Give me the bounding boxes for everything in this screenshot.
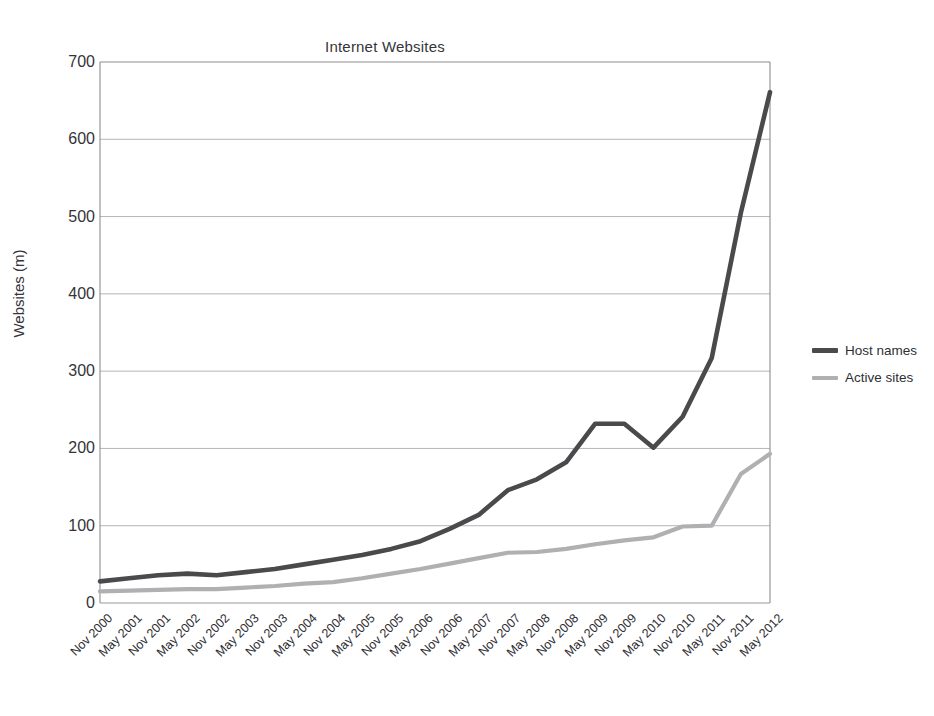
y-tick-0: 0 [49, 594, 95, 612]
legend-swatch-host-names [812, 348, 838, 353]
y-tick-300: 300 [49, 362, 95, 380]
y-axis-tick-labels: 7006005004003002001000 [40, 0, 95, 716]
series-line-active-sites [100, 454, 770, 592]
legend-swatch-active-sites [812, 376, 838, 380]
y-tick-100: 100 [49, 517, 95, 535]
y-tick-200: 200 [49, 439, 95, 457]
axis-frame [100, 62, 770, 603]
y-axis-title: Websites (m) [10, 214, 27, 374]
legend-item-active-sites: Active sites [812, 364, 917, 391]
y-tick-400: 400 [49, 285, 95, 303]
chart-legend: Host names Active sites [812, 337, 917, 391]
series-line-host-names [100, 92, 770, 581]
gridlines [100, 62, 770, 526]
legend-label-host-names: Host names [845, 344, 917, 358]
legend-item-host-names: Host names [812, 337, 917, 364]
series-lines [100, 92, 770, 591]
plot-area [0, 0, 934, 716]
chart-title: Internet Websites [0, 38, 770, 55]
y-tick-700: 700 [49, 53, 95, 71]
chart-figure: Internet Websites Websites (m) 700600500… [0, 0, 934, 716]
legend-label-active-sites: Active sites [845, 371, 913, 385]
y-tick-500: 500 [49, 208, 95, 226]
y-tick-600: 600 [49, 130, 95, 148]
